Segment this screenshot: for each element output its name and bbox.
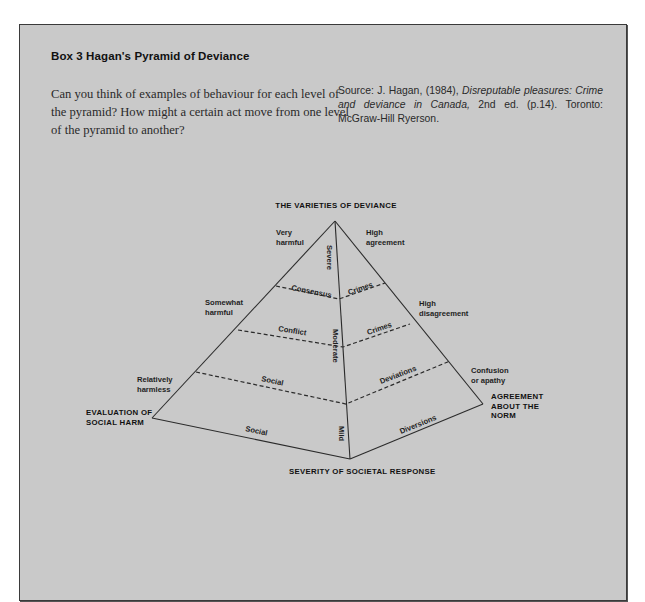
left-axis-label: EVALUATION OF SOCIAL HARM xyxy=(86,408,155,427)
label-somewhat-harmful: Somewhat harmful xyxy=(205,298,245,317)
label-crimes-top: Crimes xyxy=(347,280,374,297)
bottom-axis-label: SEVERITY OF SOCIETAL RESPONSE xyxy=(289,467,435,476)
pyramid-diagram: THE VARIETIES OF DEVIANCE Very harmful S… xyxy=(0,0,645,602)
label-relatively-harmless: Relatively harmless xyxy=(137,375,175,394)
label-social-base: Social xyxy=(245,424,269,437)
label-confusion-apathy: Confusion or apathy xyxy=(471,366,511,385)
label-high-agreement: High agreement xyxy=(366,228,405,247)
label-conflict: Conflict xyxy=(278,324,308,337)
right-axis-label: AGREEMENT ABOUT THE NORM xyxy=(491,392,546,420)
label-diversions: Diversions xyxy=(398,413,437,436)
label-severe: Severe xyxy=(325,245,334,270)
label-consensus: Consensus xyxy=(291,283,333,300)
label-moderate: Moderate xyxy=(331,329,340,363)
label-very-harmful: Very harmful xyxy=(276,228,304,247)
diagram-title: THE VARIETIES OF DEVIANCE xyxy=(275,201,396,210)
label-mild: Mild xyxy=(337,426,346,442)
pyramid-outline xyxy=(152,221,483,459)
label-social-dashed: Social xyxy=(261,374,285,387)
label-high-disagreement: High disagreement xyxy=(419,299,469,318)
